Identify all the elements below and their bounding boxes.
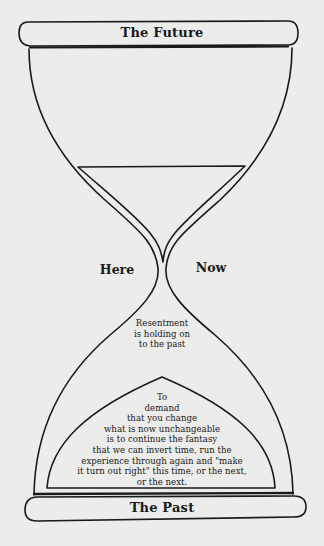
pile-line: experience through again and "make (52, 456, 272, 467)
pile-line: it turn out right" this time, or the nex… (52, 466, 272, 477)
caption-line: to the past (110, 339, 214, 350)
pile-line: that you change (52, 413, 272, 424)
resentment-caption: Resentment is holding on to the past (110, 318, 214, 350)
pile-line: demand (52, 403, 272, 414)
here-label: Here (92, 262, 142, 277)
pile-line: or the next. (52, 477, 272, 488)
now-label: Now (186, 260, 236, 275)
future-label: The Future (0, 25, 324, 40)
past-label: The Past (0, 500, 324, 515)
pile-line: what is now unchangeable (52, 424, 272, 435)
caption-line: is holding on (110, 329, 214, 340)
caption-line: Resentment (110, 318, 214, 329)
pile-line: To (52, 392, 272, 403)
hourglass-diagram: The Future Here Now Resentment is holdin… (0, 0, 324, 546)
sand-triangle-top (78, 166, 245, 262)
sand-pile-text: To demand that you change what is now un… (52, 392, 272, 487)
pile-line: that we can invert time, run the (52, 445, 272, 456)
pile-line: is to continue the fantasy (52, 434, 272, 445)
